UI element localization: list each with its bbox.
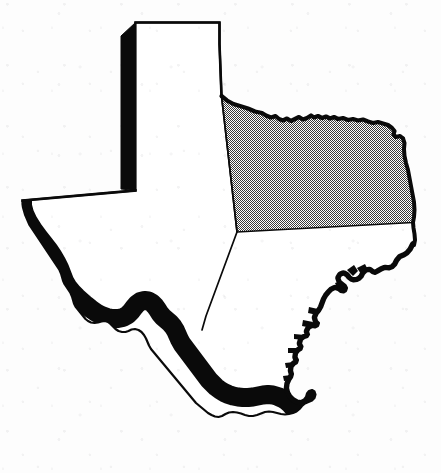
map-figure-page xyxy=(0,0,441,473)
texas-map-graphic xyxy=(0,0,441,473)
panhandle-west-border xyxy=(121,23,136,191)
